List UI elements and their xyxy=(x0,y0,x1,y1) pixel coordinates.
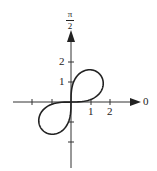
pi-numerator: π xyxy=(68,9,73,19)
polar-plot xyxy=(0,0,157,171)
polar-axis-label: 0 xyxy=(143,96,149,107)
polar-axis-arrow-icon xyxy=(130,98,141,106)
vertical-axis-label: π 2 xyxy=(66,10,74,31)
vertical-axis-arrow-icon xyxy=(67,30,75,42)
denominator: 2 xyxy=(68,21,73,31)
y-tick-label-2: 2 xyxy=(59,56,65,67)
x-tick-label-1: 1 xyxy=(88,106,94,117)
x-tick-label-2: 2 xyxy=(107,106,113,117)
y-tick-label-1: 1 xyxy=(59,76,65,87)
